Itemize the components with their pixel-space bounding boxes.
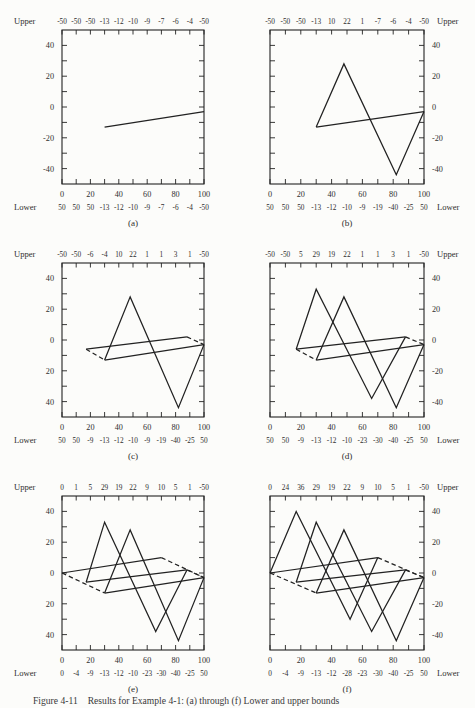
upper-axis-word: Upper <box>14 16 36 26</box>
upper-row-value: -7 <box>375 17 381 26</box>
lower-row-value: 50 <box>58 436 66 445</box>
y-tick-label: 40 <box>46 398 54 407</box>
lower-row-value: 50 <box>73 203 81 212</box>
upper-row-value: -7 <box>158 17 164 26</box>
y-tick-label: 0 <box>432 103 436 112</box>
lower-row-value: -10 <box>128 203 138 212</box>
lower-row-value: 0 <box>60 669 64 678</box>
lower-row-value: 50 <box>266 203 274 212</box>
book-figure-page: -50-50-50-13-12-10-9-7-6-4-50505050-13-1… <box>0 0 475 708</box>
x-tick-label: 20 <box>86 656 94 665</box>
lower-row-value: -19 <box>373 203 383 212</box>
upper-row-value: 10 <box>374 483 382 492</box>
y-tick-label: -40 <box>432 398 443 407</box>
upper-row-value: 22 <box>129 250 137 259</box>
axes-frame <box>270 263 424 417</box>
lower-row-value: -25 <box>185 436 195 445</box>
x-tick-label: 60 <box>143 190 151 199</box>
x-tick-label: 0 <box>268 423 272 432</box>
lower-row-value: 50 <box>73 436 81 445</box>
y-tick-label: -40 <box>43 165 54 174</box>
upper-row-value: -50 <box>199 17 209 26</box>
upper-row-value: 10 <box>328 17 336 26</box>
y-tick-label: 40 <box>46 274 54 283</box>
axes-frame <box>62 263 204 417</box>
x-tick-label: 100 <box>418 656 430 665</box>
upper-row-value: -50 <box>199 483 209 492</box>
upper-row-value: 29 <box>101 483 109 492</box>
lower-row-value: -30 <box>373 436 383 445</box>
y-tick-label: 20 <box>46 72 54 81</box>
lower-row-value: 50 <box>58 203 66 212</box>
upper-row-value: -50 <box>419 250 429 259</box>
upper-row-value: 0 <box>268 483 272 492</box>
x-tick-label: 0 <box>268 656 272 665</box>
x-tick-label: 60 <box>358 190 366 199</box>
axes-frame <box>62 496 204 650</box>
upper-axis-word: Upper <box>14 249 36 259</box>
lower-axis-word: Lower <box>437 435 460 445</box>
y-tick-label: 20 <box>46 305 54 314</box>
x-tick-label: 80 <box>172 190 180 199</box>
curve-lower-bound-dash-left <box>270 573 316 593</box>
lower-row-value: -40 <box>388 436 398 445</box>
lower-row-value: -40 <box>388 203 398 212</box>
lower-row-value: -10 <box>128 436 138 445</box>
y-tick-label: 20 <box>432 305 440 314</box>
y-tick-label: -40 <box>432 631 443 640</box>
lower-row-value: -12 <box>114 669 124 678</box>
x-tick-label: 20 <box>297 656 305 665</box>
lower-row-value: -10 <box>342 203 352 212</box>
upper-row-value: -50 <box>281 250 291 259</box>
upper-row-value: -50 <box>199 250 209 259</box>
y-tick-label: 20 <box>432 538 440 547</box>
upper-row-value: -13 <box>311 17 321 26</box>
curve-upper-bound-2-dash-left <box>86 349 104 360</box>
y-tick-label: 40 <box>432 274 440 283</box>
subplot-a: -50-50-50-13-12-10-9-7-6-4-50505050-13-1… <box>0 0 237 233</box>
lower-axis-word: Lower <box>14 435 37 445</box>
x-tick-label: 80 <box>172 656 180 665</box>
lower-row-value: -23 <box>358 669 368 678</box>
lower-row-value: -40 <box>388 669 398 678</box>
x-tick-label: 40 <box>115 190 123 199</box>
x-tick-label: 0 <box>60 423 64 432</box>
y-tick-label: 0 <box>432 336 436 345</box>
lower-row-value: -13 <box>100 669 110 678</box>
lower-row-value: -9 <box>359 203 365 212</box>
upper-row-value: -50 <box>419 483 429 492</box>
upper-row-value: 22 <box>129 483 137 492</box>
y-tick-label: -20 <box>43 134 54 143</box>
lower-row-value: 0 <box>268 669 272 678</box>
upper-row-value: 1 <box>188 483 192 492</box>
upper-row-value: -12 <box>114 17 124 26</box>
lower-row-value: 50 <box>266 436 274 445</box>
upper-row-value: 19 <box>328 250 336 259</box>
lower-row-value: 50 <box>200 669 208 678</box>
figure-caption: Figure 4-11Results for Example 4-1: (a) … <box>33 695 453 706</box>
lower-row-value: 50 <box>282 436 290 445</box>
lower-row-value: -4 <box>282 669 288 678</box>
upper-row-value: -50 <box>281 17 291 26</box>
x-tick-label: 20 <box>86 423 94 432</box>
lower-row-value: -12 <box>327 436 337 445</box>
lower-row-value: -13 <box>100 203 110 212</box>
lower-row-value: 50 <box>420 436 428 445</box>
lower-row-value: -7 <box>158 203 164 212</box>
x-tick-label: 40 <box>328 190 336 199</box>
upper-axis-word: Upper <box>14 482 36 492</box>
axes-frame <box>270 30 424 184</box>
x-tick-label: 80 <box>172 423 180 432</box>
x-tick-label: 40 <box>115 656 123 665</box>
lower-row-value: -12 <box>114 203 124 212</box>
subplot-canvas: -50-5052919221131-505050-9-13-12-10-23-3… <box>237 233 474 466</box>
lower-row-value: -10 <box>342 436 352 445</box>
upper-row-value: 22 <box>343 250 351 259</box>
y-tick-label: 20 <box>432 72 440 81</box>
subplot-label: (e) <box>128 684 138 694</box>
upper-row-value: -50 <box>296 17 306 26</box>
curve-zigzag-1 <box>105 530 204 641</box>
lower-row-value: -25 <box>404 669 414 678</box>
lower-row-value: 50 <box>297 203 305 212</box>
subplot-label: (a) <box>128 218 138 228</box>
